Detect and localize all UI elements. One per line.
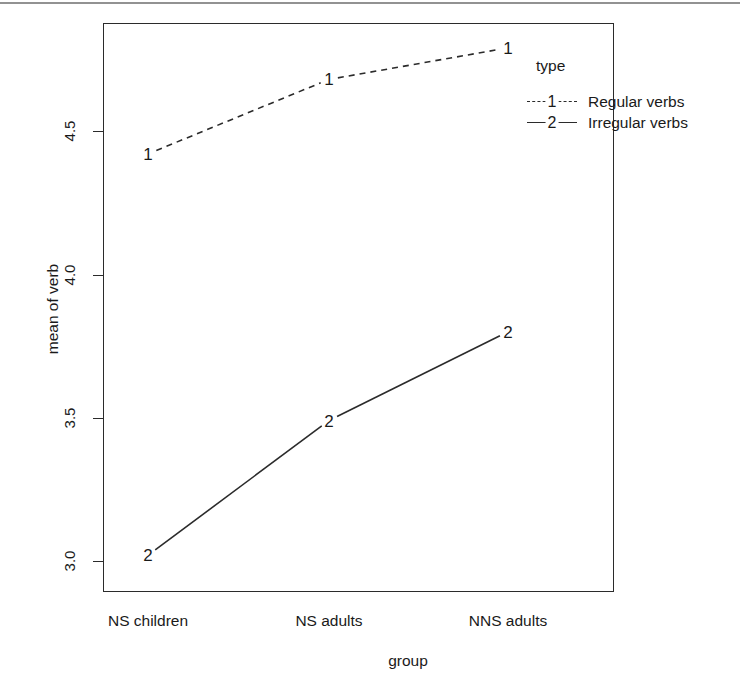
y-tick-label-3.5: 3.5 (62, 400, 78, 436)
interaction-plot-figure: 4.5 4.0 3.5 3.0 mean of verb NS children… (0, 0, 740, 695)
y-tick-mark-3.5 (93, 418, 104, 419)
y-tick-mark-4.0 (93, 275, 104, 276)
data-point-irregular-ns-adults: 2 (322, 412, 335, 429)
legend-key-irregular-verbs: 2 (527, 113, 577, 133)
data-point-regular-nns-adults: 1 (501, 39, 514, 56)
y-tick-label-4.0: 4.0 (62, 257, 78, 293)
legend-label-regular-verbs: Regular verbs (577, 93, 685, 111)
legend-symbol-1: 1 (546, 94, 559, 110)
data-point-irregular-nns-adults: 2 (501, 323, 514, 340)
data-point-regular-ns-adults: 1 (322, 71, 335, 88)
legend-key-regular-verbs: 1 (527, 92, 577, 112)
legend-label-irregular-verbs: Irregular verbs (577, 114, 688, 132)
legend-symbol-2: 2 (546, 115, 559, 131)
legend: type 1 Regular verbs 2 Irregular verbs (527, 57, 717, 133)
y-tick-mark-3.0 (93, 561, 104, 562)
x-tick-label-nns-adults: NNS adults (469, 612, 547, 630)
x-tick-label-ns-children: NS children (108, 612, 188, 630)
y-tick-mark-4.5 (93, 131, 104, 132)
y-axis-title: mean of verb (44, 234, 62, 384)
data-point-irregular-ns-children: 2 (141, 547, 154, 564)
x-tick-label-ns-adults: NS adults (295, 612, 362, 630)
y-tick-label-4.5: 4.5 (62, 113, 78, 149)
x-axis-title-text: group (388, 652, 428, 669)
data-point-regular-ns-children: 1 (141, 145, 154, 162)
y-tick-label-3.0: 3.0 (62, 543, 78, 579)
legend-row-regular-verbs: 1 Regular verbs (527, 91, 717, 112)
legend-title: type (527, 57, 717, 75)
x-axis-title: group (0, 652, 740, 670)
legend-row-irregular-verbs: 2 Irregular verbs (527, 112, 717, 133)
